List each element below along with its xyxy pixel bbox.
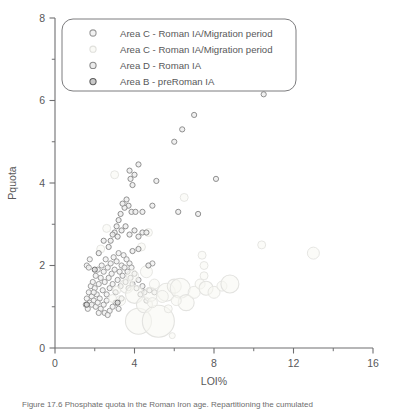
data-point xyxy=(93,273,98,278)
data-point xyxy=(90,279,95,284)
data-point xyxy=(96,251,101,256)
data-point xyxy=(192,112,197,117)
data-point xyxy=(136,234,141,239)
data-point xyxy=(176,209,181,214)
figure-caption: Figure 17.6 Phosphate quota in the Roman… xyxy=(22,400,380,410)
data-point xyxy=(128,176,133,181)
data-point xyxy=(116,306,121,311)
data-point xyxy=(110,281,115,286)
legend-label-2: Area D - Roman IA xyxy=(120,60,202,71)
data-point xyxy=(133,209,138,214)
data-point xyxy=(103,257,108,262)
data-point xyxy=(198,251,206,259)
data-point xyxy=(132,172,137,177)
plot-canvas: 048121602468LOI%Pquota Area C - Roman IA… xyxy=(0,0,399,398)
data-point xyxy=(156,290,168,302)
data-point xyxy=(136,246,141,251)
data-point xyxy=(200,272,208,280)
data-point xyxy=(95,300,100,305)
data-point xyxy=(108,261,113,266)
legend-label-1: Area C - Roman IA/Migration period xyxy=(120,44,273,55)
data-point xyxy=(101,238,106,243)
data-point xyxy=(113,286,121,294)
x-tick-label: 16 xyxy=(367,357,379,369)
data-point xyxy=(99,263,104,268)
data-point xyxy=(106,244,111,249)
chart-legend: Area C - Roman IA/Migration periodArea C… xyxy=(62,19,296,91)
data-point xyxy=(129,265,134,270)
data-point xyxy=(112,267,117,272)
data-point xyxy=(120,201,125,206)
data-point xyxy=(196,211,201,216)
legend-label-3: Area B - preRoman IA xyxy=(120,76,215,87)
y-tick-label: 0 xyxy=(39,342,45,354)
data-point xyxy=(130,248,135,253)
data-point xyxy=(98,275,103,280)
data-point xyxy=(110,232,115,237)
legend-marker-1 xyxy=(90,46,96,52)
data-point xyxy=(104,292,109,297)
data-point xyxy=(127,232,132,237)
data-point xyxy=(102,279,107,284)
legend-marker-3 xyxy=(90,79,96,85)
y-tick-label: 4 xyxy=(39,177,45,189)
data-point xyxy=(150,203,155,208)
y-tick-label: 8 xyxy=(39,12,45,24)
data-points-layer xyxy=(83,92,319,339)
data-point xyxy=(221,275,239,293)
data-point xyxy=(180,127,185,132)
data-point xyxy=(116,251,121,256)
data-point xyxy=(147,298,157,308)
data-point xyxy=(200,262,208,270)
x-tick-label: 8 xyxy=(211,357,217,369)
data-point xyxy=(127,270,139,282)
legend-label-0: Area C - Roman IA/Migration period xyxy=(120,28,273,39)
data-point xyxy=(100,288,105,293)
data-point xyxy=(136,162,141,167)
data-point xyxy=(105,312,110,317)
data-point xyxy=(91,290,96,295)
data-point xyxy=(123,224,128,229)
data-point xyxy=(307,247,319,259)
y-axis-title: Pquota xyxy=(6,166,18,199)
data-point xyxy=(261,92,266,97)
data-point xyxy=(146,263,151,268)
series-2 xyxy=(96,92,266,268)
x-axis-title: LOI% xyxy=(201,375,227,387)
data-point xyxy=(86,265,91,270)
data-point xyxy=(180,193,188,201)
data-point xyxy=(103,224,111,232)
data-point xyxy=(119,228,124,233)
data-point xyxy=(118,211,123,216)
data-point xyxy=(114,259,119,264)
data-point xyxy=(124,197,129,202)
data-point xyxy=(87,257,92,262)
data-point xyxy=(154,178,159,183)
data-point xyxy=(140,209,145,214)
data-point xyxy=(258,241,266,249)
figure-scatter-plot: 048121602468LOI%Pquota Area C - Roman IA… xyxy=(0,0,399,410)
data-point xyxy=(172,139,177,144)
x-tick-label: 4 xyxy=(132,357,138,369)
data-point xyxy=(96,310,101,315)
data-point xyxy=(164,305,172,313)
data-point xyxy=(84,302,89,307)
data-point xyxy=(171,296,181,306)
x-tick-label: 0 xyxy=(52,357,58,369)
data-point xyxy=(120,273,125,278)
data-point xyxy=(115,300,120,305)
data-point xyxy=(213,176,218,181)
data-point xyxy=(111,171,119,179)
data-point xyxy=(108,238,113,243)
y-tick-label: 6 xyxy=(39,94,45,106)
legend-marker-2 xyxy=(90,62,96,68)
data-point xyxy=(116,218,121,223)
data-point xyxy=(115,234,120,239)
data-point xyxy=(101,269,106,274)
data-point xyxy=(92,267,97,272)
x-tick-label: 12 xyxy=(288,357,300,369)
series-1 xyxy=(97,171,320,339)
data-point xyxy=(115,277,120,282)
data-point xyxy=(96,281,101,286)
data-point xyxy=(127,168,132,173)
